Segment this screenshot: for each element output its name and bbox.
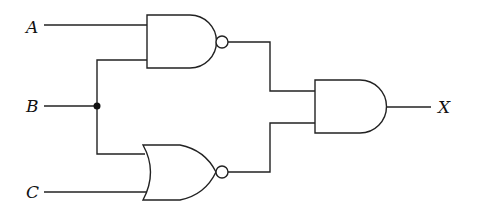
wire-b-to-nor <box>97 106 145 154</box>
wire-nor-to-and <box>228 123 315 172</box>
input-label-b: B <box>25 96 39 116</box>
nor-gate <box>143 145 228 200</box>
nor-bubble <box>216 166 228 178</box>
junction-dot-b <box>94 103 101 110</box>
input-label-a: A <box>24 17 38 37</box>
nand-gate <box>147 15 228 68</box>
and-gate <box>315 80 387 133</box>
logic-circuit: A B C X <box>0 0 478 217</box>
output-label-x: X <box>436 97 451 117</box>
wire-b-to-nand <box>97 60 147 106</box>
nand-bubble <box>216 36 228 48</box>
wire-nand-to-and <box>228 42 315 91</box>
input-label-c: C <box>26 182 39 202</box>
